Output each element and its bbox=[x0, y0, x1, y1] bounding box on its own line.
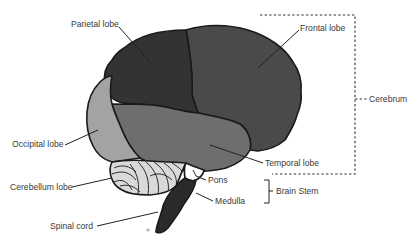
spinal-cord-leader bbox=[97, 212, 158, 226]
label-pons: Pons bbox=[208, 175, 228, 185]
label-frontal-lobe: Frontal lobe bbox=[300, 23, 346, 33]
label-temporal-lobe: Temporal lobe bbox=[265, 158, 319, 168]
label-cerebrum: Cerebrum bbox=[369, 94, 407, 104]
label-cerebellum-lobe: Cerebellum lobe bbox=[10, 182, 73, 192]
medulla-leader bbox=[196, 193, 213, 201]
parietal-lobe bbox=[104, 30, 198, 113]
label-spinal-cord: Spinal cord bbox=[50, 221, 93, 231]
cerebellum-leader bbox=[72, 178, 112, 187]
brain-stem-bracket bbox=[264, 180, 269, 203]
label-brain-stem: Brain Stem bbox=[276, 186, 319, 196]
spinal-cord-tip bbox=[146, 229, 150, 232]
label-parietal-lobe: Parietal lobe bbox=[71, 19, 119, 29]
brain-diagram: Parietal lobe Frontal lobe Cerebrum Occi… bbox=[0, 0, 417, 244]
label-medulla: Medulla bbox=[215, 196, 245, 206]
label-occipital-lobe: Occipital lobe bbox=[12, 139, 64, 149]
